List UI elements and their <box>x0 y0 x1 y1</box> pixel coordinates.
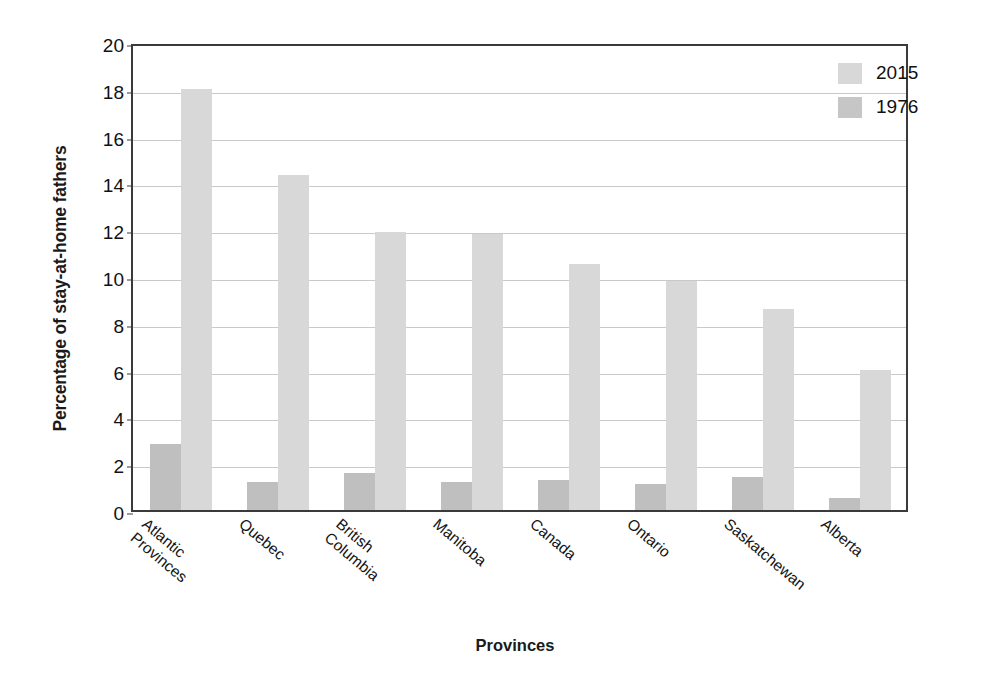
y-tick-label: 12 <box>103 222 124 244</box>
y-tick-label: 2 <box>113 456 124 478</box>
x-axis-label: AtlanticProvinces <box>126 515 201 586</box>
bar-1976 <box>150 444 181 510</box>
bar-1976 <box>538 480 569 510</box>
bars-layer <box>133 46 906 510</box>
legend-swatch <box>838 63 862 84</box>
bar-2015 <box>278 175 309 510</box>
x-axis-label: Ontario <box>624 515 675 561</box>
bar-1976 <box>829 498 860 510</box>
x-label-line: Ontario <box>624 515 675 561</box>
bar-1976 <box>635 484 666 510</box>
bar-2015 <box>860 370 891 510</box>
x-axis-label: Manitoba <box>429 515 489 570</box>
x-axis-category-labels: AtlanticProvincesQuebecBritishColumbiaMa… <box>131 515 908 630</box>
x-label-line: Alberta <box>818 515 867 560</box>
bar-1976 <box>441 482 472 510</box>
bar-1976 <box>344 473 375 510</box>
legend-item: 1976 <box>838 90 930 124</box>
legend-label: 2015 <box>876 62 918 84</box>
y-tick-label: 18 <box>103 82 124 104</box>
legend-label: 1976 <box>876 96 918 118</box>
bar-chart-figure: Percentage of stay-at-home fathers 02468… <box>0 0 996 683</box>
x-axis-title: Provinces <box>130 636 900 655</box>
chart-legend: 20151976 <box>838 56 930 124</box>
bar-2015 <box>666 281 697 510</box>
y-tick-label: 20 <box>103 35 124 57</box>
bar-2015 <box>472 234 503 510</box>
x-label-line: Manitoba <box>429 515 489 570</box>
y-tick-label: 10 <box>103 269 124 291</box>
x-label-line: Quebec <box>235 515 288 564</box>
legend-item: 2015 <box>838 56 930 90</box>
x-axis-label: Saskatchewan <box>721 515 810 594</box>
x-axis-label: BritishColumbia <box>321 515 394 585</box>
x-label-line: Saskatchewan <box>721 515 810 594</box>
legend-swatch <box>838 97 862 118</box>
y-tick-label: 8 <box>113 316 124 338</box>
y-tick-label: 16 <box>103 129 124 151</box>
bar-1976 <box>732 477 763 510</box>
bar-2015 <box>763 309 794 510</box>
bar-2015 <box>375 232 406 510</box>
x-axis-label: Canada <box>526 515 579 564</box>
bar-2015 <box>569 264 600 510</box>
x-label-line: Canada <box>526 515 579 564</box>
bar-1976 <box>247 482 278 510</box>
bar-2015 <box>181 89 212 510</box>
y-tick-label: 14 <box>103 175 124 197</box>
x-axis-label: Quebec <box>235 515 288 564</box>
y-axis-title: Percentage of stay-at-home fathers <box>50 79 71 499</box>
y-tick-label: 4 <box>113 409 124 431</box>
plot-area: 02468101214161820 <box>131 44 908 512</box>
y-tick-label: 0 <box>113 503 124 525</box>
x-axis-label: Alberta <box>818 515 867 560</box>
y-tick-label: 6 <box>113 363 124 385</box>
